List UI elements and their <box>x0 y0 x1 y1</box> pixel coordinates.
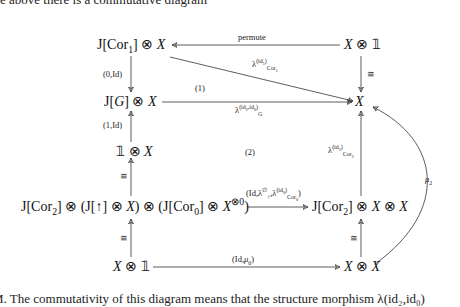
label-lambda-g: λ(id2,id0)G <box>235 106 262 115</box>
label-id-mu0: (Id,μ0) <box>232 255 254 264</box>
label-iso-left-bottom: ≅ <box>120 234 128 243</box>
node-x-x: X ⊗ X <box>344 260 380 274</box>
label-iso-right-bottom: ≅ <box>350 234 358 243</box>
label-iso-top-right: ≅ <box>367 70 375 79</box>
label-lambda-cor2: λ(id2)Cor2 <box>328 146 354 157</box>
label-one-id: (1,Id) <box>103 121 122 130</box>
node-x-unit-bottom: X ⊗ 𝟙 <box>113 260 150 274</box>
region-label-1: (1) <box>195 84 205 93</box>
node-j-g-x: J[G] ⊗ X <box>104 95 156 109</box>
label-iso-left-mid: ≅ <box>120 172 128 181</box>
label-zero-id: (0,Id) <box>103 70 122 79</box>
prose-bottom-line: M. The commutativity of this diagram mea… <box>0 291 425 307</box>
label-mu2: μ2 <box>425 175 432 184</box>
node-x-unit-top: X ⊗ 𝟙 <box>344 38 381 52</box>
node-j-cor1-x: J[Cor1] ⊗ X <box>97 38 165 52</box>
node-unit-x: 𝟙 ⊗ X <box>116 145 153 159</box>
label-id-lambda: (Id,λ∅↑,λ(id0)Cor0) <box>246 189 301 200</box>
node-big-left: J[Cor2] ⊗ (J[↑] ⊗ X) ⊗ (J[Cor0] ⊗ X⊗0) <box>21 200 249 214</box>
node-x-center: X <box>355 95 364 109</box>
label-permute: permute <box>238 33 266 42</box>
arrow-mu2 <box>373 107 427 264</box>
label-lambda-cor1: λ(id1)Cor1 <box>252 60 278 71</box>
node-j-cor2-xx: J[Cor2] ⊗ X ⊗ X <box>312 200 408 214</box>
region-label-2: (2) <box>245 148 255 157</box>
